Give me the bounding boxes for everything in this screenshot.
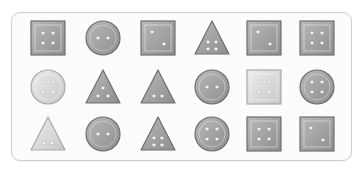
square-button-2-holes-icon[interactable] — [138, 18, 178, 58]
triangle-button-4-holes-icon[interactable] — [138, 114, 178, 154]
square-button-4-holes-icon[interactable] — [297, 18, 337, 58]
triangle-button-3-holes-icon[interactable] — [83, 67, 123, 107]
circle-button-2-holes-icon[interactable] — [192, 67, 232, 107]
triangle-button-4-holes-icon[interactable] — [192, 18, 232, 58]
circle-button-2-holes-icon[interactable] — [83, 114, 123, 154]
circle-button-4-holes-icon[interactable] — [28, 67, 68, 107]
triangle-button-2-holes-icon[interactable] — [138, 67, 178, 107]
circle-button-4-holes-icon[interactable] — [297, 67, 337, 107]
circle-button-4-holes-icon[interactable] — [192, 114, 232, 154]
square-button-4-holes-icon[interactable] — [28, 18, 68, 58]
square-button-2-holes-icon[interactable] — [244, 18, 284, 58]
square-button-4-holes-icon[interactable] — [244, 114, 284, 154]
triangle-button-2-holes-icon[interactable] — [28, 114, 68, 154]
circle-button-2-holes-icon[interactable] — [83, 18, 123, 58]
square-button-2-holes-icon[interactable] — [297, 114, 337, 154]
square-button-4-holes-icon[interactable] — [244, 67, 284, 107]
